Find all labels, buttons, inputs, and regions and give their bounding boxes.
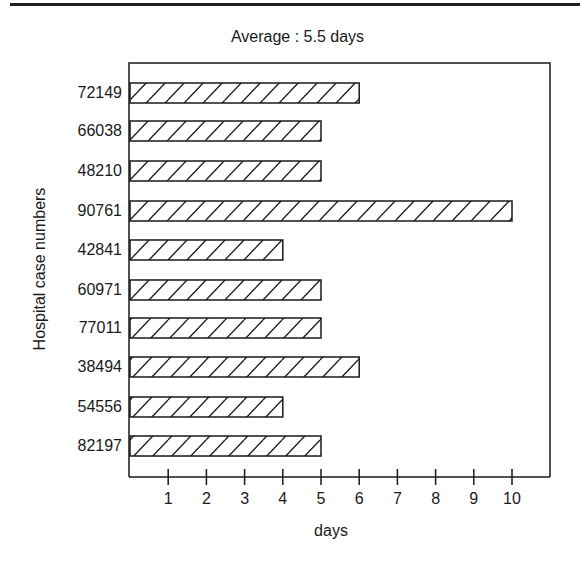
category-label: 48210 [78,162,123,180]
bar-38494 [130,357,359,377]
x-tick-label: 1 [164,490,173,508]
bar-60971 [130,280,321,300]
x-tick-label: 5 [317,490,326,508]
bar-66038 [130,121,321,141]
category-label: 82197 [78,437,123,455]
bar-42841 [130,240,283,260]
category-label: 60971 [78,281,123,299]
bars-group [130,83,512,456]
category-label: 90761 [78,202,123,220]
x-axis-label: days [314,522,348,540]
bar-54556 [130,397,283,417]
category-label: 66038 [78,122,123,140]
bar-72149 [130,83,359,103]
x-tick-label: 2 [202,490,211,508]
category-label: 54556 [78,398,123,416]
x-tick-label: 6 [355,490,364,508]
x-tick-label: 8 [431,490,440,508]
y-axis-label: Hospital case numbers [31,188,49,351]
x-tick-label: 4 [278,490,287,508]
bar-82197 [130,436,321,456]
category-label: 72149 [78,84,123,102]
x-tick-label: 3 [240,490,249,508]
bar-90761 [130,201,512,221]
x-tick-label: 7 [393,490,402,508]
bar-48210 [130,161,321,181]
category-label: 42841 [78,241,123,259]
bar-77011 [130,318,321,338]
x-tick-label: 10 [503,490,521,508]
category-label: 38494 [78,358,123,376]
x-tick-label: 9 [469,490,478,508]
category-label: 77011 [79,319,122,337]
